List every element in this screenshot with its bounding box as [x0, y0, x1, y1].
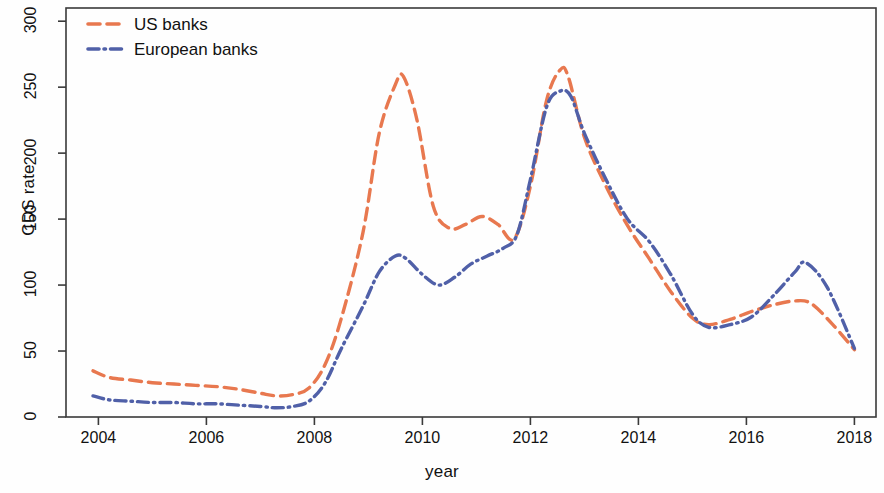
x-tick-label: 2010 — [392, 429, 452, 447]
y-tick-label: 150 — [22, 195, 40, 241]
y-tick-label: 250 — [22, 63, 40, 109]
axis-ticks — [58, 21, 854, 425]
x-tick-label: 2012 — [500, 429, 560, 447]
plot-frame — [66, 8, 876, 417]
x-tick-label: 2008 — [284, 429, 344, 447]
x-tick-label: 2018 — [824, 429, 884, 447]
chart-figure: CDS rate year 050100150200250300 2004200… — [0, 0, 884, 493]
series-line-european-banks — [93, 90, 854, 408]
x-tick-label: 2004 — [68, 429, 128, 447]
x-tick-label: 2014 — [608, 429, 668, 447]
y-tick-label: 100 — [22, 261, 40, 307]
y-tick-label: 300 — [22, 0, 40, 43]
legend-label-us-banks: US banks — [134, 15, 208, 35]
x-tick-label: 2016 — [716, 429, 776, 447]
legend-label-european-banks: European banks — [134, 40, 258, 60]
chart-plot-area — [0, 0, 884, 493]
data-series-group — [93, 67, 854, 407]
x-axis-title: year — [0, 462, 884, 482]
y-tick-label: 50 — [22, 327, 40, 373]
y-tick-label: 0 — [22, 393, 40, 439]
legend-swatches — [88, 24, 126, 49]
y-tick-label: 200 — [22, 129, 40, 175]
x-tick-label: 2006 — [176, 429, 236, 447]
series-line-us-banks — [93, 67, 854, 396]
